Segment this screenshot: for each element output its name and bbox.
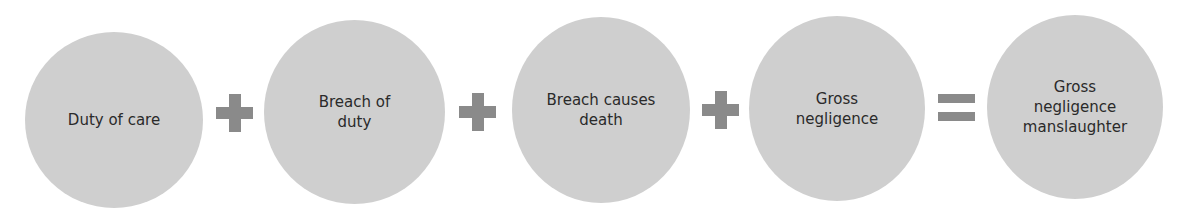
- term-label: Duty of care: [68, 110, 160, 130]
- circle-breach-of-duty: Breach of duty: [264, 20, 445, 204]
- term-label: Gross negligence manslaughter: [1023, 77, 1127, 137]
- term-label: Breach causes death: [547, 90, 656, 130]
- term-label: Gross negligence: [796, 89, 878, 129]
- plus-icon: [702, 91, 739, 129]
- circle-duty-of-care: Duty of care: [25, 32, 203, 208]
- circle-breach-causes-death: Breach causes death: [512, 17, 690, 203]
- term-label: Breach of duty: [319, 92, 391, 132]
- plus-icon: [216, 94, 253, 132]
- plus-icon: [459, 93, 496, 131]
- equals-icon: [938, 94, 975, 121]
- circle-gross-negligence-manslaughter: Gross negligence manslaughter: [987, 15, 1163, 199]
- circle-gross-negligence: Gross negligence: [749, 16, 925, 201]
